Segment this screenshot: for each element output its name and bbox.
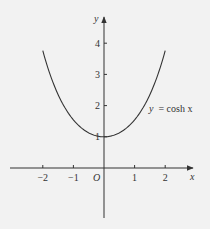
x-tick-label: −2 xyxy=(37,172,48,183)
x-tick-label: 2 xyxy=(163,172,168,183)
origin-label: O xyxy=(93,172,100,183)
y-tick-label: 2 xyxy=(95,100,100,111)
y-tick-label: 4 xyxy=(95,38,100,49)
x-tick-label: −1 xyxy=(68,172,79,183)
chart: −2−112 1234 x y O y= cosh x xyxy=(0,0,210,229)
x-axis-label: x xyxy=(189,171,195,182)
y-ticks: 1234 xyxy=(95,38,107,143)
curve-label: y= cosh x xyxy=(148,103,192,114)
y-tick-label: 3 xyxy=(95,69,100,80)
y-axis-label: y xyxy=(93,13,99,24)
cosh-plot: −2−112 1234 x y O y= cosh x xyxy=(0,0,210,229)
x-tick-label: 1 xyxy=(132,172,137,183)
